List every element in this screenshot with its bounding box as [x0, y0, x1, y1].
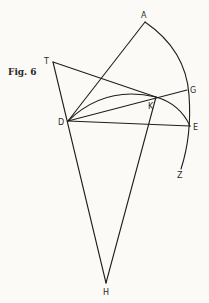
- figure-caption: Fig. 6: [8, 67, 37, 77]
- line-DG: [68, 90, 187, 121]
- point-label-G: G: [190, 86, 196, 95]
- line-KH: [106, 97, 156, 283]
- line-DE: [68, 121, 190, 126]
- point-label-E: E: [193, 123, 198, 132]
- point-label-T: T: [43, 57, 49, 66]
- point-label-Z: Z: [177, 171, 183, 180]
- line-TK: [53, 62, 156, 97]
- point-label-K: K: [148, 102, 154, 111]
- point-label-D: D: [58, 118, 64, 127]
- point-label-A: A: [141, 11, 147, 20]
- line-TH: [53, 62, 106, 283]
- geometry-figure: Fig. 6 A T D K G E Z H: [0, 0, 209, 303]
- point-label-H: H: [103, 288, 109, 297]
